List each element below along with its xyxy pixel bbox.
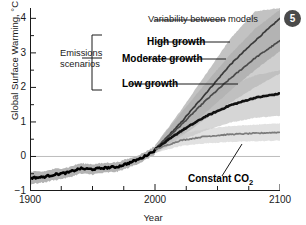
- x-axis-title: Year: [0, 212, 306, 223]
- annotation-constant-co2-text: Constant CO: [188, 173, 249, 184]
- annotation-emissions-line1: Emissions: [60, 48, 102, 59]
- y-tick-label: 3: [8, 47, 26, 58]
- uncertainty-bands-group: [30, 8, 280, 185]
- x-tick-label: 1900: [10, 194, 50, 205]
- annotation-constant-co2-subscript: 2: [249, 178, 253, 187]
- figure-root: 5 Global Surface Warming, °C Year −10123…: [0, 0, 306, 225]
- badge-label: 5: [290, 13, 296, 24]
- y-tick-label: 2: [8, 81, 26, 92]
- figure-number-badge: 5: [284, 10, 301, 27]
- y-tick-label: 4: [8, 12, 26, 23]
- annotation-emissions-scenarios: Emissions scenarios: [60, 48, 102, 70]
- annotation-constant-co2: Constant CO2: [188, 173, 253, 187]
- y-tick-label: 0: [8, 150, 26, 161]
- y-tick-label: 1: [8, 116, 26, 127]
- x-tick-label: 2000: [135, 194, 175, 205]
- annotation-high-growth: High growth: [147, 36, 205, 47]
- annotation-low-growth: Low growth: [122, 78, 178, 89]
- annotation-moderate-growth: Moderate growth: [122, 53, 203, 64]
- x-tick-label: 2100: [260, 194, 300, 205]
- annotation-emissions-line2: scenarios: [60, 59, 102, 70]
- annotation-variability: Variability between models: [148, 14, 258, 24]
- band-historical: [30, 147, 155, 185]
